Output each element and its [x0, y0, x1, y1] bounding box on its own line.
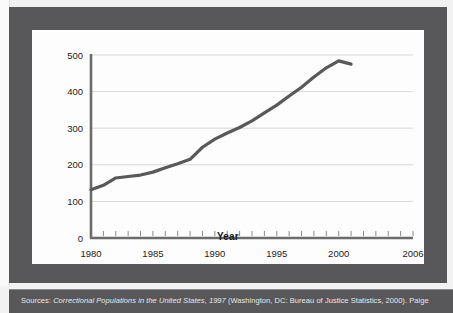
y-tick-label: 500 [67, 50, 83, 61]
source-prefix: Sources: [21, 296, 53, 305]
line-chart: 0100200300400500198019851990199520002006 [32, 30, 424, 264]
x-tick-label: 1985 [142, 248, 163, 259]
y-tick-label: 100 [67, 196, 83, 207]
x-tick-label: 1990 [204, 248, 225, 259]
y-tick-label: 200 [67, 159, 83, 170]
data-series-line [91, 61, 351, 190]
source-suffix: (Washington, DC: Bureau of Justice Stati… [226, 296, 429, 305]
source-title: Correctional Populations in the United S… [53, 296, 226, 305]
screenshot-root: 0100200300400500198019851990199520002006… [0, 0, 453, 313]
x-tick-label: 1995 [266, 248, 287, 259]
chart-plot-svg: 0100200300400500198019851990199520002006 [32, 30, 424, 264]
y-tick-label: 300 [67, 123, 83, 134]
figure-frame: 0100200300400500198019851990199520002006… [9, 7, 447, 283]
figure-panel: 0100200300400500198019851990199520002006… [32, 30, 424, 264]
source-caption-text: Sources: Correctional Populations in the… [21, 296, 429, 305]
x-tick-label: 2006 [402, 248, 423, 259]
source-caption-bar: Sources: Correctional Populations in the… [9, 289, 453, 313]
x-tick-label: 1980 [80, 248, 101, 259]
x-axis-title: Year [32, 231, 424, 242]
x-tick-label: 2000 [328, 248, 349, 259]
y-tick-label: 400 [67, 86, 83, 97]
